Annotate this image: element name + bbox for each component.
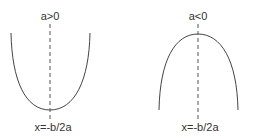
condition-label-left: a>0 [41, 10, 60, 22]
upward-parabola-group [11, 24, 90, 120]
upward-parabola-curve [11, 33, 90, 110]
parabola-diagram [0, 0, 255, 139]
axis-label-right: x=-b/2a [182, 121, 219, 133]
condition-label-right: a<0 [189, 10, 208, 22]
downward-parabola-group [159, 24, 238, 120]
axis-label-left: x=-b/2a [35, 121, 72, 133]
